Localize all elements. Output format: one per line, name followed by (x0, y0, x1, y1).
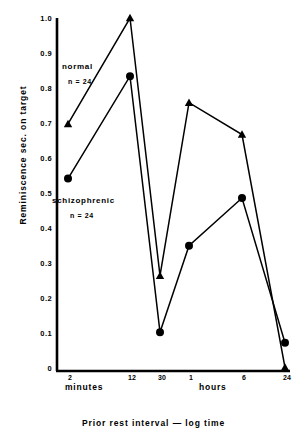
x-tick-label: 6 (234, 374, 254, 381)
data-point-circle (185, 242, 193, 250)
data-point-triangle (281, 363, 289, 370)
data-point-triangle (238, 130, 246, 137)
chart-figure: Reminiscence sec. on target 1.0 0.9 0.8 … (0, 0, 307, 437)
x-tick-label: 24 (277, 374, 297, 381)
data-point-circle (156, 328, 164, 336)
data-point-triangle (156, 271, 164, 278)
x-tick-label: 30 (152, 374, 172, 381)
series-label-schizophrenic: schizophrenic (52, 196, 115, 205)
x-axis-title: Prior rest interval — log time (0, 418, 307, 428)
x-tick-label: 12 (122, 374, 142, 381)
series-n-normal: n = 24 (68, 78, 92, 85)
series-line (68, 76, 285, 343)
series-n-schizophrenic: n = 24 (70, 212, 94, 219)
x-tick-label: 2 (60, 374, 80, 381)
x-tick-label: 1 (181, 374, 201, 381)
data-series-layer (64, 14, 289, 371)
data-point-circle (64, 175, 72, 183)
data-point-triangle (126, 14, 134, 21)
series-normal (64, 14, 289, 371)
x-group-label-hours: hours (199, 382, 227, 392)
plot-area (0, 0, 307, 437)
series-label-normal: normal (62, 62, 93, 71)
data-point-circle (126, 72, 134, 80)
data-point-circle (238, 194, 246, 202)
x-group-label-minutes: minutes (65, 382, 103, 392)
data-point-triangle (185, 99, 193, 106)
data-point-triangle (64, 120, 72, 127)
series-line (68, 18, 285, 368)
data-point-circle (281, 339, 289, 347)
